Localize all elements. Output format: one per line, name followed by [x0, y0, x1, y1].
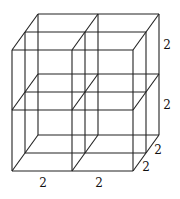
- dimension-label: 2: [154, 143, 162, 157]
- dimension-label: 2: [163, 38, 171, 52]
- dimension-label: 2: [163, 98, 171, 112]
- dimension-label: 2: [142, 160, 150, 174]
- dimension-labels: 222222: [39, 38, 171, 190]
- cube-grid-diagram: 222222: [0, 0, 180, 199]
- dimension-label: 2: [95, 176, 103, 190]
- wireframe-edges: [12, 14, 159, 171]
- dimension-label: 2: [39, 176, 47, 190]
